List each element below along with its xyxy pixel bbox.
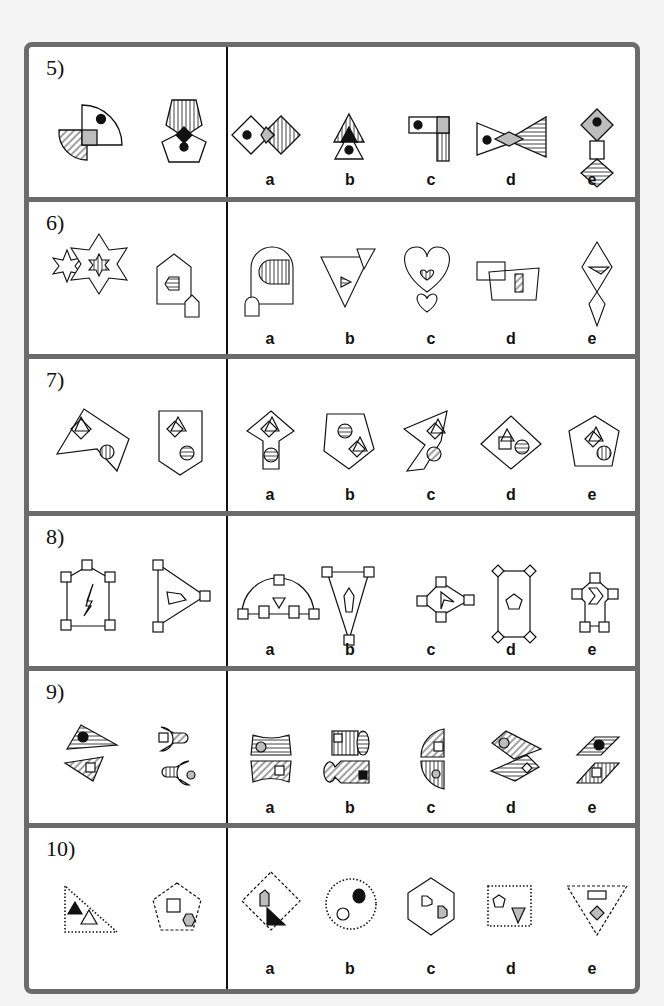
question-row-8: 8) xyxy=(29,516,635,671)
question-row-7: 7) xyxy=(29,359,635,516)
option-label-b[interactable]: b xyxy=(340,960,360,978)
option-label-c[interactable]: c xyxy=(421,799,441,817)
option-label-c[interactable]: c xyxy=(421,960,441,978)
option-label-d[interactable]: d xyxy=(501,799,521,817)
puzzle-sheet: 5) xyxy=(24,42,640,994)
option-label-b[interactable]: b xyxy=(340,486,360,504)
option-label-e[interactable]: e xyxy=(582,330,602,348)
option-label-d[interactable]: d xyxy=(501,330,521,348)
option-label-a[interactable]: a xyxy=(260,799,280,817)
option-label-e[interactable]: e xyxy=(582,960,602,978)
option-label-e[interactable]: e xyxy=(582,641,602,659)
option-label-c[interactable]: c xyxy=(421,641,441,659)
option-label-d[interactable]: d xyxy=(501,641,521,659)
question-7-figures xyxy=(29,359,635,511)
question-8-figures xyxy=(29,516,635,666)
option-label-c[interactable]: c xyxy=(421,486,441,504)
question-row-5: 5) xyxy=(29,47,635,202)
option-label-a[interactable]: a xyxy=(260,960,280,978)
question-row-9: 9) xyxy=(29,671,635,828)
question-9-figures xyxy=(29,671,635,823)
option-label-a[interactable]: a xyxy=(260,641,280,659)
option-label-e[interactable]: e xyxy=(582,171,602,189)
option-label-a[interactable]: a xyxy=(260,171,280,189)
option-label-c[interactable]: c xyxy=(421,330,441,348)
option-label-c[interactable]: c xyxy=(421,171,441,189)
option-label-b[interactable]: b xyxy=(340,171,360,189)
option-label-d[interactable]: d xyxy=(501,486,521,504)
question-5-figures xyxy=(29,47,635,197)
option-label-e[interactable]: e xyxy=(582,486,602,504)
question-10-figures xyxy=(29,828,635,988)
option-label-b[interactable]: b xyxy=(340,799,360,817)
option-label-d[interactable]: d xyxy=(501,171,521,189)
option-label-e[interactable]: e xyxy=(582,799,602,817)
question-row-6: 6) xyxy=(29,202,635,359)
option-label-a[interactable]: a xyxy=(260,486,280,504)
option-label-b[interactable]: b xyxy=(340,641,360,659)
question-row-10: 10) xyxy=(29,828,635,989)
question-6-figures xyxy=(29,202,635,354)
option-label-a[interactable]: a xyxy=(260,330,280,348)
option-label-b[interactable]: b xyxy=(340,330,360,348)
option-label-d[interactable]: d xyxy=(501,960,521,978)
